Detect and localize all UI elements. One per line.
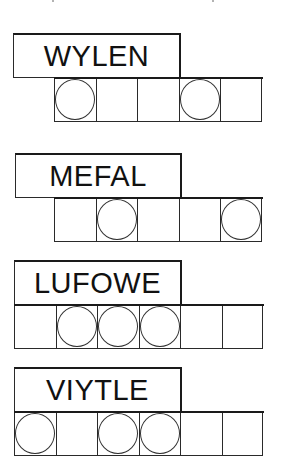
answer-cells [54,77,263,122]
clipped-text-fragment [212,0,214,2]
answer-cell-circled[interactable] [139,306,181,349]
answer-cell[interactable] [180,413,222,456]
clipped-text-fragment [52,0,54,2]
answer-cell[interactable] [56,413,98,456]
answer-cells [14,411,264,456]
answer-cell[interactable] [180,306,222,349]
answer-cell[interactable] [220,79,262,122]
answer-cell-circled[interactable] [14,413,56,456]
scrambled-word-box: MEFAL [15,153,182,198]
scrambled-word: VIYTLE [46,374,149,407]
answer-cell-circled[interactable] [54,79,96,122]
answer-cell-circled[interactable] [179,79,221,122]
answer-cell-circled[interactable] [139,413,181,456]
answer-cell[interactable] [96,79,138,122]
answer-cell[interactable] [14,306,56,349]
answer-cell-circled[interactable] [97,413,139,456]
scrambled-word-box: VIYTLE [14,367,182,412]
scrambled-word-box: WYLEN [13,33,181,78]
scrambled-word-box: LUFOWE [14,260,182,305]
answer-cell-circled[interactable] [97,306,139,349]
answer-cell[interactable] [222,413,264,456]
answer-cell[interactable] [54,199,96,242]
answer-cell[interactable] [137,79,179,122]
answer-cells [14,304,264,349]
answer-cell[interactable] [179,199,221,242]
answer-cell-circled[interactable] [56,306,98,349]
answer-cell[interactable] [137,199,179,242]
scrambled-word: WYLEN [44,40,150,73]
answer-cells [54,197,263,242]
scrambled-word: LUFOWE [34,267,161,300]
answer-cell-circled[interactable] [220,199,262,242]
answer-cell[interactable] [222,306,264,349]
answer-cell-circled[interactable] [96,199,138,242]
scrambled-word: MEFAL [49,160,147,193]
